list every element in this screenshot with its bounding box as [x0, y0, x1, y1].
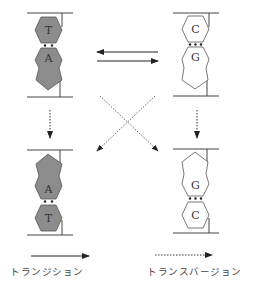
transversion-arrow-diagonal-down-right [100, 96, 158, 151]
base-label-A: A [44, 52, 54, 65]
base-label-G: G [191, 51, 200, 64]
legend-transversion-label: トランスバージョン [147, 264, 242, 278]
base-label-T: T [45, 212, 53, 225]
mutation-diagram: T A C G A T [0, 0, 255, 283]
base-pair-bottom-right: G C [173, 149, 219, 233]
legend-transition-label: トランジション [10, 264, 84, 278]
base-label-A: A [44, 183, 54, 196]
base-label-C: C [191, 209, 199, 222]
base-pair-top-right: C G [173, 13, 219, 96]
base-label-C: C [191, 23, 199, 36]
base-label-T: T [45, 24, 53, 37]
base-pair-bottom-left: A T [27, 150, 73, 235]
base-pair-top-left: T A [27, 13, 73, 97]
base-label-G: G [191, 179, 200, 192]
transversion-arrow-diagonal-down-left [97, 96, 155, 151]
